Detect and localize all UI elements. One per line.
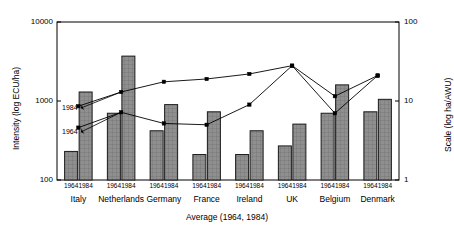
line-marker: [205, 123, 208, 126]
x-tick-year: 1984: [159, 183, 183, 190]
x-tick-year: 1984: [74, 183, 98, 190]
x-tick-year: 1984: [116, 183, 140, 190]
line-marker: [333, 95, 336, 98]
line-marker: [376, 74, 379, 77]
y-tick-label: 100: [18, 176, 53, 184]
bar: [321, 113, 334, 180]
y2-tick-label: 100: [404, 18, 434, 26]
bar: [336, 85, 349, 180]
series-annotation-1984: 1984: [62, 104, 78, 111]
line-marker: [162, 122, 165, 125]
x-tick-year: 1984: [202, 183, 226, 190]
x-tick-year: 1984: [373, 183, 397, 190]
bar: [122, 56, 135, 180]
y-tick-label: 10000: [18, 18, 53, 26]
bar: [207, 112, 220, 180]
x-axis-title: Average (1964, 1984): [0, 213, 454, 222]
bar: [107, 113, 120, 180]
x-tick-year: 1984: [330, 183, 354, 190]
line-marker: [333, 112, 336, 115]
y-axis-title: Intensity (log ECU/ha): [12, 67, 21, 150]
bar: [193, 155, 206, 180]
line-marker: [248, 103, 251, 106]
y2-tick-label: 10: [404, 97, 434, 105]
bar: [165, 105, 178, 180]
bar: [378, 99, 391, 180]
bar: [293, 124, 306, 180]
x-tick-year: 1984: [287, 183, 311, 190]
y2-tick-label: 1: [404, 176, 434, 184]
series-annotation-1964: 1964: [62, 128, 78, 135]
bar: [250, 131, 263, 180]
bar: [278, 146, 291, 180]
bar: [236, 155, 249, 180]
line-marker: [248, 72, 251, 75]
line-marker: [162, 80, 165, 83]
bar: [150, 131, 163, 180]
bar: [364, 112, 377, 180]
x-tick-year: 1984: [245, 183, 269, 190]
y2-axis-title: Scale (log ha/AWU): [444, 78, 453, 152]
bar: [65, 151, 78, 180]
x-category-label: Denmark: [348, 195, 408, 204]
line-marker: [290, 64, 293, 67]
line-marker: [205, 77, 208, 80]
y-tick-label: 1000: [18, 97, 53, 105]
